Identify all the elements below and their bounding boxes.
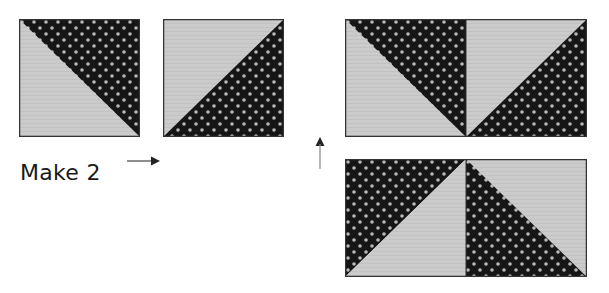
arrow-right-icon (127, 152, 161, 171)
assembled-bottom-row (345, 159, 587, 277)
half-square-triangle-2 (163, 19, 284, 137)
make-2-label: Make 2 (20, 160, 101, 185)
half-square-triangle-1 (19, 19, 140, 137)
arrow-up-icon (314, 137, 326, 173)
assembled-top-row (345, 19, 587, 137)
